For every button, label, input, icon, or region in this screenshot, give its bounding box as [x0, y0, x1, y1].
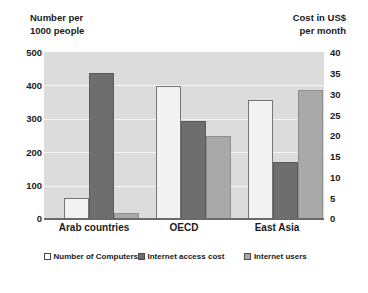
- bar-east-asia-computers[interactable]: [248, 100, 273, 219]
- bar-group-east-asia: [248, 52, 323, 219]
- chart-legend: Number of Computers Internet access cost…: [44, 245, 324, 267]
- y-axis-left-tick-0: 0: [2, 214, 42, 224]
- x-axis-label-oecd: OECD: [140, 222, 228, 233]
- bar-oecd-access-cost[interactable]: [181, 121, 206, 219]
- bar-group-arab-countries: [64, 52, 139, 219]
- y-axis-right-tick-20: 20: [330, 131, 364, 141]
- bar-arab-countries-computers[interactable]: [64, 198, 89, 219]
- legend-swatch-icon-internet-users: [244, 253, 251, 260]
- left-axis-caption: Number per 1000 people: [30, 12, 84, 37]
- chart-figure: Number per 1000 people Cost in US$ per m…: [0, 0, 368, 293]
- x-axis-label-east-asia: East Asia: [232, 222, 322, 233]
- bar-group-oecd: [156, 52, 231, 219]
- legend-swatch-icon-access-cost: [138, 253, 145, 260]
- legend-item-internet-users[interactable]: Internet users: [244, 252, 306, 261]
- y-axis-right-tick-10: 10: [330, 173, 364, 183]
- x-axis-label-arab-countries: Arab countries: [44, 222, 144, 233]
- legend-item-number-of-computers[interactable]: Number of Computers: [44, 252, 138, 261]
- y-axis-right-tick-15: 15: [330, 152, 364, 162]
- legend-label-access-cost: Internet access cost: [147, 252, 224, 261]
- y-axis-left-tick-500: 500: [2, 48, 42, 58]
- y-axis-right-tick-5: 5: [330, 194, 364, 204]
- y-axis-left-tick-300: 300: [2, 114, 42, 124]
- bar-east-asia-access-cost[interactable]: [273, 162, 298, 219]
- x-axis-baseline: [44, 218, 324, 220]
- legend-swatch-icon-computers: [44, 253, 51, 260]
- legend-label-computers: Number of Computers: [54, 252, 138, 261]
- bar-east-asia-internet-users[interactable]: [298, 90, 323, 219]
- y-axis-right-tick-0: 0: [330, 214, 364, 224]
- y-axis-left-tick-400: 400: [2, 81, 42, 91]
- bar-oecd-computers[interactable]: [156, 86, 181, 219]
- y-axis-right-tick-40: 40: [330, 48, 364, 58]
- bar-arab-countries-access-cost[interactable]: [89, 73, 114, 219]
- plot-area: [44, 52, 324, 219]
- legend-item-internet-access-cost[interactable]: Internet access cost: [138, 252, 224, 261]
- right-axis-caption: Cost in US$ per month: [293, 12, 346, 37]
- y-axis-right-tick-35: 35: [330, 69, 364, 79]
- y-axis-left-tick-100: 100: [2, 181, 42, 191]
- y-axis-left-tick-200: 200: [2, 148, 42, 158]
- y-axis-right-tick-30: 30: [330, 90, 364, 100]
- bar-oecd-internet-users[interactable]: [206, 136, 231, 220]
- y-axis-right-tick-25: 25: [330, 111, 364, 121]
- legend-label-internet-users: Internet users: [254, 252, 307, 261]
